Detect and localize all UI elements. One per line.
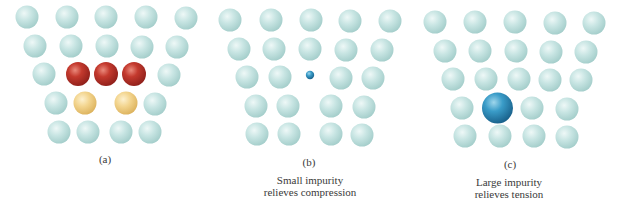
host-atom [330,67,353,90]
host-atom [219,9,242,32]
panel-b-label: (b) [303,157,316,168]
substitutional-small-atom [74,92,97,115]
panel-b-caption: Small impurity relieves compression [264,174,357,198]
panel-c-lattice [424,11,606,149]
host-atom [351,124,374,147]
host-atom [505,40,528,63]
substitutional-large-atom [66,62,90,86]
substitutional-large-atom [94,62,118,86]
panel-c-caption-line-2: relieves tension [475,188,544,200]
host-atom [379,10,402,33]
host-atom [521,97,544,120]
host-atom [245,95,268,118]
host-atom [131,36,154,59]
host-atom [339,10,362,33]
host-atom [60,35,83,58]
host-atom [299,38,322,61]
interstitial-atom [482,93,513,124]
panel-c-caption: Large impurity relieves tension [475,176,544,200]
host-atom [434,40,457,63]
panel-c-caption-line-1: Large impurity [475,176,544,188]
panel-c-label: (c) [504,159,516,170]
host-atom [469,40,492,63]
host-atom [556,126,579,149]
host-atom [96,35,119,58]
panel-b-caption-line-1: Small impurity [264,174,357,186]
host-atom [335,39,358,62]
host-atom [539,69,562,92]
interstitial-atom [306,71,314,79]
host-atom [260,9,283,32]
panel-a-label: (a) [99,154,111,165]
host-atom [228,38,251,61]
host-atom [489,125,512,148]
host-atom [48,121,71,144]
host-atom [175,7,198,30]
host-atom [144,93,167,116]
host-atom [246,123,269,146]
host-atom [371,39,394,62]
host-atom [424,11,447,34]
host-atom [16,6,39,29]
host-atom [320,95,343,118]
substitutional-large-atom [122,62,146,86]
host-atom [540,41,563,64]
impurity-lattice-figure: (a) (b) (c) Small impurity relieves comp… [0,0,620,207]
host-atom [475,68,498,91]
host-atom [24,35,47,58]
host-atom [236,66,259,89]
host-atom [56,6,79,29]
host-atom [583,12,606,35]
panel-b-lattice [219,9,402,147]
host-atom [158,64,181,87]
host-atom [45,92,68,115]
host-atom [353,96,376,119]
panel-a-lattice [16,6,198,144]
host-atom [320,123,343,146]
host-atom [442,68,465,91]
host-atom [504,11,527,34]
host-atom [269,66,292,89]
host-atom [166,36,189,59]
host-atom [135,6,158,29]
host-atom [277,95,300,118]
host-atom [95,6,118,29]
host-atom [523,125,546,148]
host-atom [570,69,593,92]
host-atom [544,12,567,35]
host-atom [454,125,477,148]
substitutional-small-atom [115,92,138,115]
host-atom [139,121,162,144]
host-atom [110,121,133,144]
host-atom [77,121,100,144]
host-atom [464,11,487,34]
host-atom [33,63,56,86]
host-atom [278,123,301,146]
panel-b-caption-line-2: relieves compression [264,186,357,198]
host-atom [300,9,323,32]
host-atom [362,67,385,90]
host-atom [556,98,579,121]
host-atom [263,38,286,61]
host-atom [575,41,598,64]
host-atom [508,68,531,91]
host-atom [451,97,474,120]
